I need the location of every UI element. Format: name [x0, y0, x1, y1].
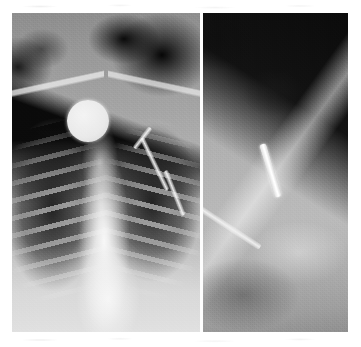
- panel-detail-supraclavicular[interactable]: [203, 13, 348, 332]
- air-wedge-layer: [203, 13, 348, 332]
- panel-divider: [200, 13, 203, 332]
- soft-tissue-base-layer: [203, 13, 348, 332]
- lower-soft-tissue-layer: [203, 13, 348, 332]
- catheter-shaft-segment-2: [140, 137, 170, 191]
- shoulder-soft-tissue-layer: [12, 13, 200, 332]
- air-column-layer: [12, 13, 200, 332]
- rib-ladder-right-layer: [12, 13, 200, 332]
- clavicles-layer: [12, 13, 200, 332]
- radiograph-plate-pair: [12, 13, 348, 332]
- panel-frontal-chest[interactable]: [12, 13, 200, 332]
- film-grain-overlay: [203, 13, 348, 332]
- scan-speckle-bottom: [0, 334, 361, 346]
- bright-band-layer: [203, 13, 348, 332]
- lung-fields-layer: [12, 13, 200, 332]
- retained-metallic-fragment: [259, 143, 282, 198]
- rib-ladder-left-layer: [12, 13, 200, 332]
- device-shaft: [203, 198, 262, 250]
- diaphragm-layer: [12, 13, 200, 332]
- film-grain-overlay: [12, 13, 200, 332]
- catheter-shaft-segment-3: [163, 170, 186, 216]
- air-pocket-layer: [203, 13, 348, 332]
- soft-tissue-base-layer: [12, 13, 200, 332]
- scan-speckle-top: [0, 1, 361, 12]
- mediastinum-layer: [12, 13, 200, 332]
- radiograph-figure: [0, 0, 361, 347]
- circular-radiopaque-marker: [67, 100, 109, 142]
